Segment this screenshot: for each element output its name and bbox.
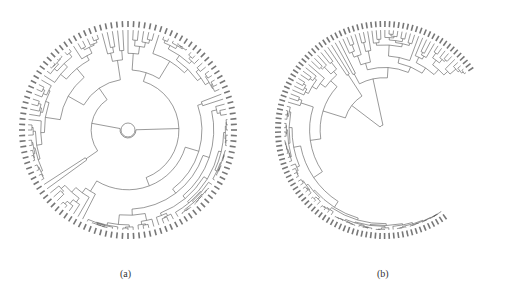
leaf-label [362, 23, 363, 29]
leaf-label [149, 23, 150, 29]
leaf-label [160, 26, 162, 32]
leaf-label [463, 60, 468, 64]
leaf-label [319, 43, 323, 48]
leaf-label [330, 220, 333, 225]
leaf-label [319, 212, 323, 217]
leaf-label [51, 53, 55, 57]
leaf-label [74, 36, 77, 41]
leaf-label [144, 22, 145, 28]
leaf-label [305, 55, 309, 59]
leaf-label [439, 217, 442, 222]
leaf-label [282, 167, 288, 169]
leaf-label [352, 26, 354, 32]
leaf-label [139, 22, 140, 28]
leaf-label [21, 151, 27, 152]
leaf-label [79, 222, 82, 227]
leaf-label [43, 61, 48, 65]
leaf-label [466, 64, 471, 68]
leaf-label [184, 216, 187, 221]
leaf-label [323, 40, 326, 45]
leaf-label [230, 141, 236, 142]
leaf-label [311, 207, 315, 211]
leaf-label [436, 36, 439, 41]
leaf-label [139, 232, 140, 238]
leaf-label [105, 23, 106, 29]
leaf-label [293, 70, 298, 73]
leaf-label [281, 163, 287, 165]
leaf-label [468, 67, 473, 70]
leaf-label [366, 232, 367, 238]
leaf-label [288, 179, 293, 182]
leaf-label [394, 21, 395, 27]
leaf-label [327, 37, 330, 42]
leaf-label [450, 47, 454, 52]
leaf-label [144, 232, 145, 238]
leaf-label [94, 228, 96, 234]
leaf-label [74, 219, 77, 224]
leaf-label [205, 57, 209, 61]
leaf-label [100, 25, 102, 31]
leaf-label [282, 91, 288, 93]
leaf-label [26, 167, 32, 169]
leaf-label [149, 231, 150, 237]
leaf-label [348, 227, 350, 233]
leaf-label [312, 48, 316, 52]
leaf-label [230, 119, 236, 120]
leaf-label [315, 45, 319, 50]
leaf-label [293, 187, 298, 190]
leaf-label [20, 113, 26, 114]
leaf-label [440, 38, 443, 43]
leaf-label [335, 222, 338, 227]
leaf-label [416, 26, 418, 32]
leaf-label [454, 50, 458, 54]
leaf-label [84, 224, 86, 229]
leaf-label [24, 96, 30, 98]
leaf-label [424, 30, 426, 36]
leaf-label [89, 28, 91, 34]
leaf-label [214, 71, 219, 74]
leaf-label [31, 177, 36, 180]
leaf-label [89, 226, 91, 232]
leaf-label [180, 36, 183, 41]
leaf-label [335, 33, 338, 38]
leaf-label [222, 86, 227, 88]
leaf-label [165, 28, 167, 34]
leaf-label [460, 56, 464, 60]
leaf-label [278, 154, 284, 155]
leaf-label [201, 203, 205, 207]
leaf-label [352, 228, 354, 234]
leaf-label [411, 229, 413, 235]
leaf-label [220, 177, 225, 180]
leaf-label [419, 227, 421, 233]
leaf-label [339, 31, 341, 36]
leaf-label [277, 109, 283, 110]
leaf-label [278, 104, 284, 105]
leaf-label [420, 28, 422, 34]
leaf-label [322, 215, 325, 220]
leaf-label [193, 45, 197, 50]
leaf-label [230, 146, 236, 147]
leaf-label [281, 95, 287, 97]
leaf-label [226, 96, 232, 98]
leaf-label [371, 22, 372, 28]
leaf-label [55, 207, 59, 211]
leaf-label [291, 74, 296, 77]
leaf-label [305, 201, 309, 205]
leaf-label [79, 33, 82, 38]
leaf-label [284, 86, 289, 88]
leaf-label [276, 141, 282, 142]
leaf-label [24, 162, 30, 164]
leaf-label [217, 76, 222, 79]
leaf-label [224, 167, 230, 169]
leaf-label [220, 81, 225, 84]
leaf-label [393, 233, 394, 239]
leaf-label [230, 113, 236, 114]
leaf-label [436, 219, 439, 224]
leaf-label [308, 204, 312, 208]
leaf-label [447, 44, 451, 49]
leaf-label [170, 224, 172, 229]
leaf-label [55, 49, 59, 53]
leaf-label [415, 228, 417, 234]
caption-b: (b) [377, 268, 389, 279]
leaf-label [286, 82, 291, 85]
